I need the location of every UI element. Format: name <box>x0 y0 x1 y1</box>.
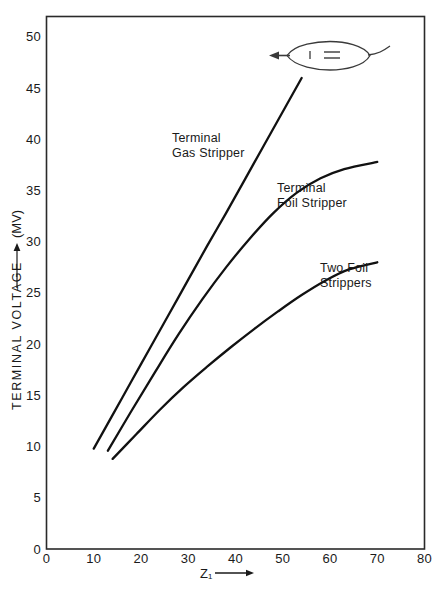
curve-label-line-2: Strippers <box>320 276 372 290</box>
figure-container: 01020304050607080 05101520253035404550 T… <box>0 0 444 589</box>
y-tick-label: 0 <box>33 542 41 557</box>
curve-label-line-1: Two Foil <box>320 261 368 275</box>
y-tick-label: 5 <box>33 490 41 505</box>
y-tick-label: 30 <box>26 234 41 249</box>
lens-doodle-tail <box>368 46 390 55</box>
lens-doodle-outline <box>287 42 370 71</box>
x-tick-label: 70 <box>370 551 385 566</box>
y-tick-label: 15 <box>26 388 41 403</box>
y-tick-label: 10 <box>26 439 41 454</box>
x-tick-label: 50 <box>275 551 290 566</box>
curve-label-terminal-gas-stripper: TerminalGas Stripper <box>172 131 245 160</box>
terminal-voltage-chart: 01020304050607080 05101520253035404550 T… <box>0 0 444 589</box>
y-tick-label: 40 <box>26 132 41 147</box>
x-tick-label: 40 <box>228 551 243 566</box>
lens-doodle-arrow-head <box>269 52 279 60</box>
x-axis-title-arrow-head <box>246 570 254 576</box>
x-tick-label: 60 <box>322 551 337 566</box>
lens-doodle <box>269 42 390 71</box>
y-axis-title: TERMINAL VOLTAGE (MV) <box>9 210 24 410</box>
curve-two-foil-strippers <box>113 262 378 459</box>
y-tick-label: 25 <box>26 285 41 300</box>
x-tick-label: 20 <box>133 551 148 566</box>
curve-label-line-1: Terminal <box>172 131 221 145</box>
curve-label-terminal-foil-stripper: TerminalFoil Stripper <box>277 181 347 210</box>
y-tick-label: 50 <box>26 29 41 44</box>
curve-annotation-labels: TerminalGas StripperTerminalFoil Strippe… <box>172 131 372 290</box>
x-tick-label: 80 <box>417 551 432 566</box>
x-tick-label: 0 <box>43 551 51 566</box>
y-axis-tick-labels: 05101520253035404550 <box>26 29 41 556</box>
curve-label-two-foil-strippers: Two FoilStrippers <box>320 261 372 290</box>
curve-label-line-1: Terminal <box>277 181 326 195</box>
x-tick-label: 30 <box>181 551 196 566</box>
y-tick-label: 35 <box>26 183 41 198</box>
x-axis-title: Z₁ <box>200 566 254 581</box>
y-axis-units-text: (MV) <box>9 210 24 238</box>
x-axis-tick-labels: 01020304050607080 <box>43 551 432 566</box>
x-tick-label: 10 <box>86 551 101 566</box>
curve-label-line-2: Gas Stripper <box>172 146 245 160</box>
curve-label-line-2: Foil Stripper <box>277 196 347 210</box>
y-tick-label: 20 <box>26 337 41 352</box>
y-tick-label: 45 <box>26 81 41 96</box>
x-axis-title-text: Z₁ <box>200 566 213 581</box>
y-axis-title-arrow-head <box>14 243 21 251</box>
